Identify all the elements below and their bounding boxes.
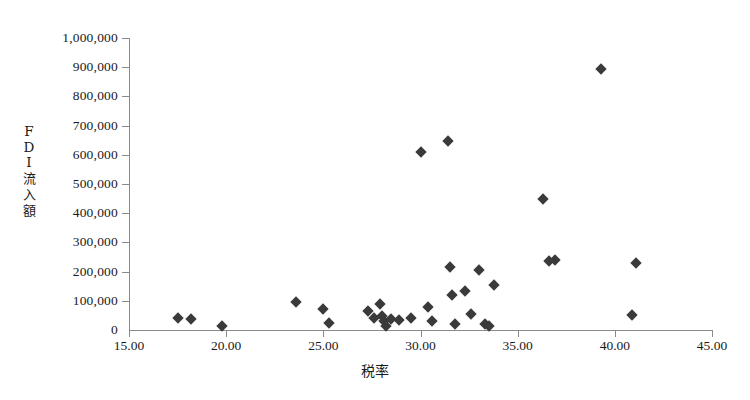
y-tick-label: 100,000 [73, 293, 118, 309]
y-axis-title-char: 流 [18, 171, 40, 187]
y-tick-mark [122, 67, 129, 68]
y-axis-title: FDI流入額 [18, 124, 40, 219]
x-tick-mark [518, 331, 519, 337]
x-axis-title: 税率 [0, 360, 750, 380]
y-tick-mark [122, 126, 129, 127]
x-tick-label: 20.00 [211, 338, 241, 354]
y-tick-label: 600,000 [73, 147, 118, 163]
x-tick-mark [323, 331, 324, 337]
x-tick-label: 30.00 [405, 338, 435, 354]
y-axis-line [129, 38, 130, 331]
y-tick-label: 300,000 [73, 234, 118, 250]
x-tick-mark [615, 331, 616, 337]
y-tick-label: 200,000 [73, 264, 118, 280]
y-tick-label: 400,000 [73, 205, 118, 221]
x-tick-mark [421, 331, 422, 337]
x-tick-mark [226, 331, 227, 337]
x-tick-label: 45.00 [697, 338, 727, 354]
y-tick-mark [122, 38, 129, 39]
y-tick-mark [122, 213, 129, 214]
x-tick-label: 15.00 [114, 338, 144, 354]
y-tick-mark [122, 184, 129, 185]
y-tick-label: 1,000,000 [62, 30, 118, 46]
y-axis-title-char: F [18, 124, 40, 140]
x-tick-mark [129, 331, 130, 337]
scatter-chart: 0100,000200,000300,000400,000500,000600,… [0, 0, 750, 400]
plot-area [129, 38, 712, 330]
y-axis-title-char: I [18, 155, 40, 171]
y-tick-label: 900,000 [73, 59, 118, 75]
y-tick-label: 800,000 [73, 88, 118, 104]
y-tick-label: 0 [111, 322, 118, 338]
y-tick-label: 700,000 [73, 118, 118, 134]
x-tick-mark [712, 331, 713, 337]
x-tick-label: 25.00 [308, 338, 338, 354]
y-tick-label: 500,000 [73, 176, 118, 192]
y-tick-mark [122, 272, 129, 273]
y-tick-mark [122, 242, 129, 243]
y-tick-mark [122, 155, 129, 156]
x-tick-label: 40.00 [600, 338, 630, 354]
y-tick-mark [122, 96, 129, 97]
y-axis-title-char: D [18, 140, 40, 156]
y-axis-title-char: 入 [18, 187, 40, 203]
y-axis-title-char: 額 [18, 203, 40, 219]
x-tick-label: 35.00 [502, 338, 532, 354]
y-tick-mark [122, 301, 129, 302]
